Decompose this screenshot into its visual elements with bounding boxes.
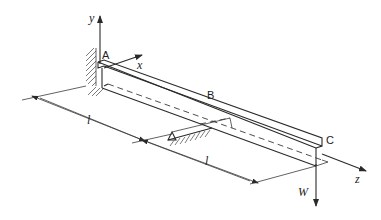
load-label-W: W — [298, 185, 309, 199]
dimension-AB: l — [32, 96, 145, 141]
y-axis: y — [88, 11, 100, 64]
dimension-label-BC: l — [205, 154, 209, 168]
point-label-A: A — [102, 49, 110, 61]
dimension-label-AB: l — [87, 113, 91, 127]
y-axis-label: y — [88, 11, 95, 25]
extension-lines — [22, 86, 316, 184]
point-label-B: B — [207, 89, 214, 101]
z-axis: z — [322, 154, 366, 186]
channel-beam — [98, 60, 328, 166]
point-label-C: C — [326, 134, 334, 146]
beam-diagram: y x — [0, 0, 381, 220]
x-axis-label: x — [136, 58, 143, 72]
z-axis-label: z — [354, 172, 360, 186]
dimension-BC: l — [142, 140, 258, 183]
x-axis: x — [104, 55, 143, 72]
